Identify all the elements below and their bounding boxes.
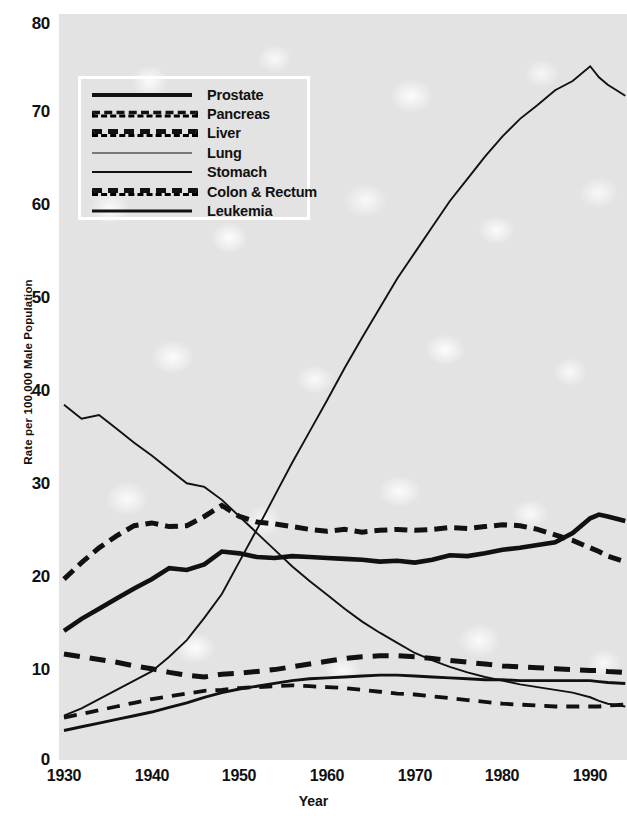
legend-swatch-stomach — [92, 165, 192, 179]
legend-label-prostate: Prostate — [207, 87, 263, 103]
y-tick-20: 20 — [4, 567, 50, 587]
y-axis-label: Rate per 100,000 Male Population — [22, 252, 34, 492]
legend-item-colon-rectum: Colon & Rectum — [81, 182, 307, 201]
legend-swatch-leukemia — [92, 204, 192, 218]
legend-item-lung: Lung — [81, 143, 307, 162]
legend: Prostate Pancreas Liver Lung Stomach Col… — [78, 76, 310, 220]
legend-item-pancreas: Pancreas — [81, 104, 307, 123]
legend-label-pancreas: Pancreas — [207, 106, 270, 122]
y-tick-80: 80 — [4, 14, 50, 34]
legend-label-lung: Lung — [207, 145, 242, 161]
x-axis-label: Year — [0, 793, 627, 809]
legend-label-stomach: Stomach — [207, 164, 267, 180]
legend-swatch-lung — [92, 146, 192, 160]
x-tick-1940: 1940 — [117, 767, 187, 785]
x-tick-1980: 1980 — [467, 767, 537, 785]
x-tick-1960: 1960 — [292, 767, 362, 785]
x-tick-1990: 1990 — [555, 767, 625, 785]
legend-item-leukemia: Leukemia — [81, 201, 307, 220]
x-tick-1930: 1930 — [29, 767, 99, 785]
cancer-death-rate-chart: 80 70 60 50 40 30 20 10 0 1930 1940 1950… — [0, 0, 627, 816]
legend-swatch-pancreas — [92, 107, 192, 121]
legend-swatch-liver — [92, 126, 192, 140]
legend-label-liver: Liver — [207, 125, 241, 141]
legend-item-prostate: Prostate — [81, 85, 307, 104]
legend-item-stomach: Stomach — [81, 163, 307, 182]
y-tick-10: 10 — [4, 660, 50, 680]
legend-item-liver: Liver — [81, 124, 307, 143]
y-tick-60: 60 — [4, 195, 50, 215]
y-tick-70: 70 — [4, 102, 50, 122]
legend-label-leukemia: Leukemia — [207, 203, 272, 219]
legend-swatch-colon-rectum — [92, 185, 192, 199]
legend-swatch-prostate — [92, 88, 192, 102]
x-tick-1970: 1970 — [380, 767, 450, 785]
x-tick-1950: 1950 — [204, 767, 274, 785]
legend-label-colon-rectum: Colon & Rectum — [207, 184, 317, 200]
series-line-stomach — [64, 405, 625, 707]
series-line-leukemia — [64, 675, 625, 730]
